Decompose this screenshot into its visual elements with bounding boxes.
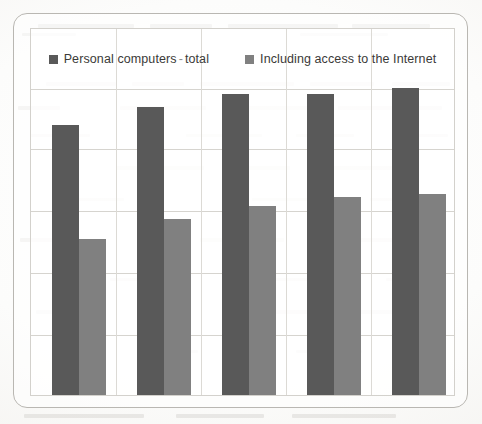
bar-internet-4 (334, 197, 361, 395)
bar-internet-1 (79, 239, 106, 395)
legend-swatch-icon (245, 55, 254, 64)
legend-label-internet: Including access to the Internet (260, 53, 436, 66)
chart-legend: Personal computers-total Including acces… (31, 29, 454, 89)
legend-label-total: Personal computers-total (64, 53, 209, 66)
bar-internet-5 (419, 194, 446, 395)
bar-total-4 (307, 94, 334, 395)
bar-total-2 (137, 107, 164, 395)
chart-screenshot: Personal computers-total Including acces… (0, 0, 482, 424)
legend-label-total-suffix: total (185, 52, 209, 66)
chart-plot-area: Personal computers-total Including acces… (30, 28, 455, 396)
legend-swatch-icon (49, 55, 58, 64)
bar-total-1 (52, 125, 79, 395)
bar-total-5 (392, 88, 419, 395)
legend-item-internet[interactable]: Including access to the Internet (245, 53, 436, 66)
legend-label-separator: - (177, 52, 185, 66)
bar-internet-2 (164, 219, 191, 395)
legend-item-total[interactable]: Personal computers-total (49, 53, 209, 66)
legend-label-total-text: Personal computers (64, 52, 177, 66)
bar-internet-3 (249, 206, 276, 395)
bar-total-3 (222, 94, 249, 395)
